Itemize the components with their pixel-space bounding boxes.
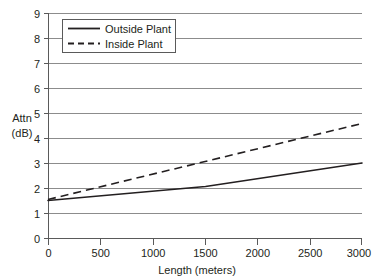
y-tick-label-9: 9 — [34, 8, 40, 20]
y-tick-label-1: 1 — [34, 208, 40, 220]
y-tick-label-6: 6 — [34, 83, 40, 95]
y-tick-label-7: 7 — [34, 58, 40, 70]
legend-label-outside-plant: Outside Plant — [105, 23, 171, 35]
x-tick-label-500: 500 — [92, 247, 110, 259]
y-tick-label-2: 2 — [34, 183, 40, 195]
y-tick-label-4: 4 — [34, 133, 40, 145]
attenuation-vs-length-chart: 9 8 7 6 5 4 3 2 1 0 0 500 1000 1500 2000… — [0, 0, 376, 279]
y-axis-title-line1: Attn — [12, 112, 32, 124]
x-tick-label-3000: 3000 — [347, 247, 371, 259]
x-tick-label-2500: 2500 — [298, 247, 322, 259]
legend-label-inside-plant: Inside Plant — [105, 38, 162, 50]
chart-container: 9 8 7 6 5 4 3 2 1 0 0 500 1000 1500 2000… — [0, 0, 376, 279]
y-tick-label-8: 8 — [34, 33, 40, 45]
x-tick-label-2000: 2000 — [246, 247, 270, 259]
y-tick-label-0: 0 — [34, 233, 40, 245]
x-tick-labels: 0 500 1000 1500 2000 2500 3000 — [45, 247, 371, 259]
x-axis-title: Length (meters) — [158, 264, 236, 276]
x-tick-label-1500: 1500 — [193, 247, 217, 259]
x-tick-label-1000: 1000 — [141, 247, 165, 259]
y-tick-label-3: 3 — [34, 158, 40, 170]
y-tick-label-5: 5 — [34, 108, 40, 120]
chart-background — [0, 0, 376, 279]
x-tick-label-0: 0 — [45, 247, 51, 259]
chart-legend: Outside Plant Inside Plant — [63, 20, 176, 53]
y-axis-title-line2: (dB) — [12, 127, 33, 139]
